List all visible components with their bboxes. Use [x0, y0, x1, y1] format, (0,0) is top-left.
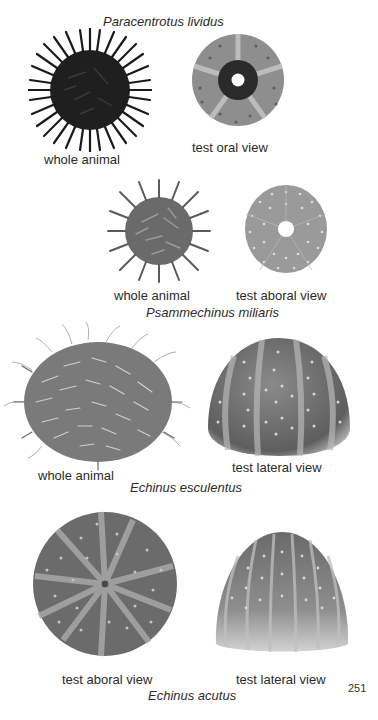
page-number: 251 [348, 682, 366, 694]
caption-whole-animal: whole animal [114, 288, 190, 303]
caption-whole-animal: whole animal [38, 468, 114, 483]
illustration-echinus-acutus-test-aboral [31, 510, 179, 658]
illustration-echinus-acutus-test-lateral [212, 528, 352, 658]
illustration-paracentrotus-test-oral [190, 32, 286, 128]
caption-test-lateral-view: test lateral view [236, 672, 326, 687]
species-name-paracentrotus-lividus: Paracentrotus lividus [103, 14, 224, 29]
caption-whole-animal: whole animal [44, 152, 120, 167]
illustration-echinus-esculentus-whole-animal [2, 322, 192, 472]
illustration-echinus-esculentus-test-lateral [204, 332, 354, 458]
caption-test-aboral-view: test aboral view [236, 288, 326, 303]
species-name-psammechinus-miliaris: Psammechinus miliaris [146, 305, 279, 320]
species-name-echinus-acutus: Echinus acutus [148, 688, 236, 703]
caption-test-oral-view: test oral view [192, 140, 268, 155]
species-name-echinus-esculentus: Echinus esculentus [130, 480, 242, 495]
caption-test-aboral-view: test aboral view [62, 672, 152, 687]
illustration-psammechinus-test-aboral [244, 184, 328, 274]
illustration-psammechinus-whole-animal [106, 178, 212, 284]
caption-test-lateral-view: test lateral view [232, 460, 322, 475]
illustration-paracentrotus-whole-animal [28, 28, 152, 152]
